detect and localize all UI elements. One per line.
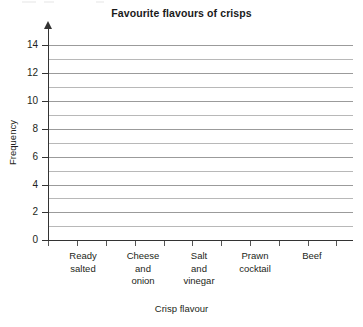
y-tick-label-12-wrap: 12 [8, 67, 38, 79]
y-tick-label-2: 2 [12, 206, 38, 217]
x-tick-4 [164, 241, 165, 246]
y-tick-label-0-wrap: 0 [8, 234, 38, 246]
gridline-6 [48, 157, 353, 158]
x-category-label-salt-and-vinegar: Salt and vinegar [172, 250, 226, 288]
gridline-13 [48, 59, 353, 60]
x-tick-2 [106, 241, 107, 246]
y-tick-8 [42, 129, 49, 130]
gridline-7 [48, 143, 353, 144]
x-category-line: Ready [56, 250, 110, 263]
x-tick-3 [135, 241, 136, 246]
y-tick-4 [42, 185, 49, 186]
x-category-line: Beef [285, 250, 339, 263]
x-category-line: onion [116, 275, 170, 288]
x-tick-6 [221, 241, 222, 246]
gridline-14 [48, 45, 353, 46]
chart-title: Favourite flavours of crisps [0, 7, 363, 19]
bar-chart-worksheet: Favourite flavours of crisps 14 12 10 8 … [0, 0, 363, 327]
x-tick-5 [192, 241, 193, 246]
x-axis-title: Crisp flavour [0, 303, 363, 314]
y-tick-6 [42, 157, 49, 158]
y-tick-2 [42, 212, 49, 213]
gridline-4 [48, 185, 353, 186]
y-tick-label-0: 0 [12, 234, 38, 245]
x-tick-0 [48, 241, 49, 246]
x-tick-9 [308, 241, 309, 246]
x-category-line: Cheese [116, 250, 170, 263]
x-tick-8 [279, 241, 280, 246]
x-category-line: and [116, 263, 170, 276]
scan-artifact [44, 1, 54, 3]
x-category-line: vinegar [172, 275, 226, 288]
y-tick-label-12: 12 [12, 67, 38, 78]
x-category-label-beef: Beef [285, 250, 339, 263]
y-tick-label-14-wrap: 14 [8, 39, 38, 51]
gridline-9 [48, 115, 353, 116]
x-category-line: Salt [172, 250, 226, 263]
y-axis-title: Frequency [7, 98, 18, 188]
x-category-label-cheese-and-onion: Cheese and onion [116, 250, 170, 288]
x-tick-10 [336, 241, 337, 246]
gridline-5 [48, 171, 353, 172]
scan-artifact [22, 1, 36, 3]
x-axis-line [42, 240, 353, 241]
x-category-label-prawn-cocktail: Prawn cocktail [228, 250, 282, 275]
x-category-line: and [172, 263, 226, 276]
gridline-2 [48, 212, 353, 213]
plot-area [48, 45, 353, 240]
y-tick-14 [42, 45, 49, 46]
x-tick-1 [77, 241, 78, 246]
gridline-10 [48, 101, 353, 102]
y-tick-12 [42, 73, 49, 74]
y-tick-label-14: 14 [12, 39, 38, 50]
gridline-11 [48, 87, 353, 88]
x-category-label-ready-salted: Ready salted [56, 250, 110, 275]
y-tick-label-2-wrap: 2 [8, 206, 38, 218]
x-category-line: Prawn [228, 250, 282, 263]
gridline-3 [48, 198, 353, 199]
gridline-8 [48, 129, 353, 130]
x-category-line: cocktail [228, 263, 282, 276]
y-tick-10 [42, 101, 49, 102]
y-axis-line [48, 27, 49, 241]
gridline-1 [48, 226, 353, 227]
x-tick-7 [250, 241, 251, 246]
scan-artifact [96, 1, 104, 3]
gridline-12 [48, 73, 353, 74]
x-category-line: salted [56, 263, 110, 276]
